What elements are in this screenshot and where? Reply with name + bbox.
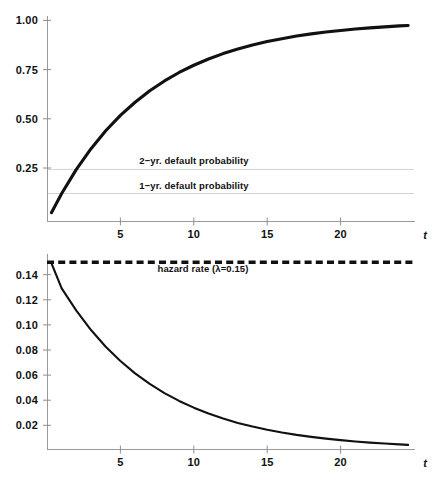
top-xtick-label-15: 15 [261,228,274,240]
chart-cumulative-default-probability: 1.00 0.75 0.50 0.25 5 10 15 20 t 2−yr. d… [0,0,437,242]
bottom-xtick-label-20: 20 [334,456,347,468]
top-xtick-label-5: 5 [117,228,123,240]
bottom-ytick-label-0-08: 0.08 [16,344,38,356]
bottom-ytick-label-0-04: 0.04 [16,394,39,406]
top-xtick-label-20: 20 [334,228,347,240]
bottom-ytick-label-0-02: 0.02 [16,419,38,431]
bottom-xtick-label-15: 15 [261,456,274,468]
bottom-ytick-label-0-06: 0.06 [16,369,38,381]
top-x-axis-label: t [423,229,428,241]
top-ytick-label-0-50: 0.50 [16,113,38,125]
top-xtick-label-10: 10 [187,228,200,240]
bottom-chart-svg: 0.02 0.04 0.06 0.08 0.10 0.12 0.14 5 10 … [0,242,437,484]
bottom-xtick-label-10: 10 [187,456,200,468]
top-ytick-label-0-25: 0.25 [16,162,38,174]
annotation-2yr-default-probability: 2−yr. default probability [139,155,249,166]
bottom-xtick-label-5: 5 [117,456,123,468]
series-unconditional-default-density [51,263,408,445]
top-ytick-label-0-75: 0.75 [16,64,38,76]
figure-default-probability-and-hazard-rate: 1.00 0.75 0.50 0.25 5 10 15 20 t 2−yr. d… [0,0,437,484]
bottom-ytick-label-0-12: 0.12 [16,294,38,306]
bottom-ytick-label-0-14: 0.14 [16,269,39,281]
annotation-hazard-rate: hazard rate (λ=0.15) [158,263,249,274]
top-ytick-label-1-00: 1.00 [16,14,38,26]
bottom-x-axis-label: t [423,457,428,469]
bottom-ytick-label-0-10: 0.10 [16,319,38,331]
chart-unconditional-default-density: 0.02 0.04 0.06 0.08 0.10 0.12 0.14 5 10 … [0,242,437,484]
top-chart-svg: 1.00 0.75 0.50 0.25 5 10 15 20 t 2−yr. d… [0,0,437,242]
annotation-1yr-default-probability: 1−yr. default probability [139,180,249,191]
